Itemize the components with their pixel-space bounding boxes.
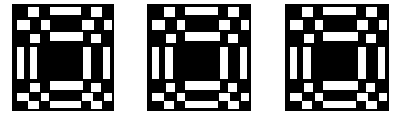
mark-rect <box>50 81 84 90</box>
mark-rect <box>91 34 101 43</box>
mark-rect <box>323 81 357 90</box>
mark-rect <box>152 47 160 79</box>
mark-rect <box>164 101 174 110</box>
mark-rect <box>104 20 112 30</box>
mark-rect <box>165 47 173 79</box>
mark-rect <box>104 93 112 102</box>
separator-left <box>114 4 147 111</box>
mark-rect <box>152 93 164 102</box>
module-3 <box>285 4 389 111</box>
separator-right <box>251 4 285 111</box>
mark-rect <box>220 47 228 79</box>
mark-rect <box>103 47 110 79</box>
mark-rect <box>41 20 50 30</box>
mark-rect <box>41 93 49 102</box>
mark-rect <box>241 20 249 30</box>
mark-rect <box>91 101 102 110</box>
mark-rect <box>228 7 239 17</box>
mark-rect <box>358 47 366 79</box>
mark-rect <box>17 93 29 102</box>
mark-rect <box>315 20 324 30</box>
mark-rect <box>290 20 304 30</box>
mark-rect <box>323 101 355 108</box>
mark-rect <box>83 47 91 79</box>
mark-rect <box>290 47 298 79</box>
mark-rect <box>185 81 219 90</box>
mark-rect <box>228 34 238 43</box>
mark-rect <box>366 7 377 17</box>
mark-rect <box>357 20 368 30</box>
artwork-canvas <box>0 0 395 117</box>
mark-rect <box>323 7 355 15</box>
mark-rect <box>323 32 357 41</box>
mark-rect <box>241 93 249 102</box>
mark-rect <box>219 20 230 30</box>
mark-rect <box>177 93 185 102</box>
mark-rect <box>302 7 313 17</box>
mark-rect <box>166 83 175 92</box>
mark-rect <box>177 20 186 30</box>
mark-rect <box>28 7 39 17</box>
mark-rect <box>228 101 239 110</box>
mark-rect <box>366 83 376 92</box>
mark-rect <box>366 34 376 43</box>
mark-rect <box>378 47 385 79</box>
mark-rect <box>185 101 217 108</box>
mark-rect <box>164 7 175 17</box>
mark-rect <box>166 34 176 43</box>
mark-rect <box>50 101 82 108</box>
mark-rect <box>185 32 219 41</box>
mark-rect <box>28 101 38 110</box>
mark-rect <box>152 20 166 30</box>
mark-rect <box>91 83 101 92</box>
mark-rect <box>82 20 93 30</box>
mark-rect <box>30 83 39 92</box>
mark-rect <box>315 93 323 102</box>
mark-rect <box>228 83 238 92</box>
mark-rect <box>17 47 25 79</box>
module-2 <box>147 4 251 111</box>
mark-rect <box>304 34 314 43</box>
mark-rect <box>366 101 377 110</box>
mark-rect <box>290 93 302 102</box>
mark-rect <box>185 7 217 15</box>
mark-rect <box>91 7 102 17</box>
mark-rect <box>50 7 82 15</box>
mark-rect <box>379 93 387 102</box>
mark-rect <box>17 20 30 30</box>
mark-rect <box>30 47 38 79</box>
module-1 <box>12 4 114 111</box>
mark-rect <box>30 34 40 43</box>
mark-rect <box>379 20 387 30</box>
mark-rect <box>240 47 247 79</box>
mark-rect <box>50 32 84 41</box>
mark-rect <box>302 101 312 110</box>
mark-rect <box>303 47 311 79</box>
mark-rect <box>304 83 313 92</box>
